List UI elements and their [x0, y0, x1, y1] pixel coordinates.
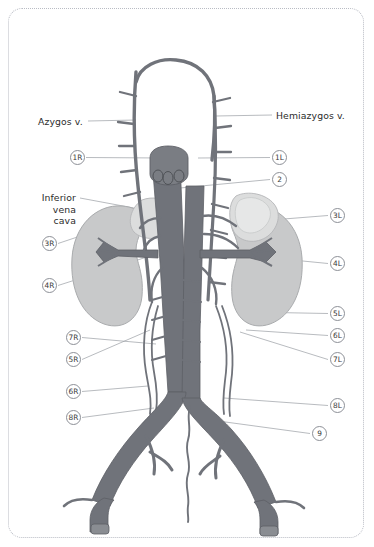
label-hemiazygos-vein: Hemiazygos v. [276, 110, 345, 122]
marker-7r[interactable]: 7R [66, 330, 81, 345]
leader-5r [82, 330, 150, 360]
marker-6l[interactable]: 6L [330, 328, 345, 343]
leader-hemiazygos [216, 115, 272, 116]
marker-8r[interactable]: 8R [66, 410, 81, 425]
anatomy-figure: Azygos v. Hemiazygos v. Inferior vena ca… [0, 0, 374, 547]
anatomy-illustration [0, 0, 374, 547]
marker-1l[interactable]: 1L [272, 150, 287, 165]
marker-7l[interactable]: 7L [330, 352, 345, 367]
marker-2[interactable]: 2 [272, 172, 287, 187]
azygos-arch [136, 60, 215, 160]
leader-7l [240, 332, 328, 360]
common-iliac-vessels [64, 392, 304, 536]
marker-4l[interactable]: 4L [330, 256, 345, 271]
abdominal-aorta [182, 186, 204, 400]
marker-8l[interactable]: 8L [330, 398, 345, 413]
leader-1l [198, 158, 270, 159]
marker-3l[interactable]: 3L [330, 208, 345, 223]
marker-1r[interactable]: 1R [70, 150, 85, 165]
leader-6r [82, 386, 148, 392]
label-azygos-vein: Azygos v. [38, 116, 83, 128]
marker-4r[interactable]: 4R [42, 278, 57, 293]
leader-8l [224, 398, 328, 406]
label-inferior-vena-cava: Inferior vena cava [24, 192, 76, 227]
leader-azygos [88, 120, 136, 121]
marker-6r[interactable]: 6R [66, 384, 81, 399]
marker-5l[interactable]: 5L [330, 306, 345, 321]
median-sacral-vessel [187, 406, 190, 522]
leader-6l [246, 330, 328, 336]
marker-9[interactable]: 9 [312, 426, 327, 441]
leader-8r [82, 408, 154, 418]
marker-5r[interactable]: 5R [66, 352, 81, 367]
marker-3r[interactable]: 3R [42, 236, 57, 251]
hemiazygos-vein [208, 96, 216, 300]
